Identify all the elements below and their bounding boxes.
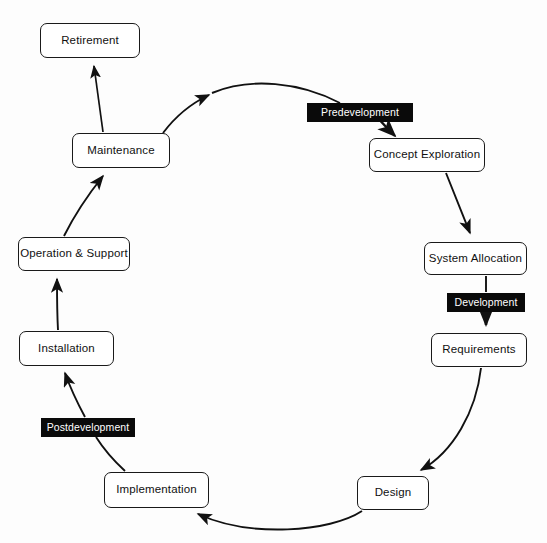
edge-postdevelopment-to-installation [65,373,85,417]
edge-installation-to-operation-support [57,279,58,330]
node-operation-support[interactable]: Operation & Support [18,237,130,271]
edge-top-arc [212,84,340,103]
phase-label-predevelopment: Predevelopment [307,103,413,122]
node-label: Installation [38,343,95,355]
edge-maintenance-to-predevelopment [163,95,209,133]
node-label: Retirement [61,35,119,47]
node-label: Operation & Support [20,248,128,260]
edge-requirements-to-design [421,368,481,470]
phase-label-development: Development [447,293,525,312]
node-label: Concept Exploration [374,149,480,161]
phase-label-text: Development [455,297,518,308]
node-maintenance[interactable]: Maintenance [72,133,170,168]
edge-design-to-implementation [198,511,362,530]
phase-label-postdevelopment: Postdevelopment [41,418,135,437]
node-label: System Allocation [429,253,522,265]
node-system-allocation[interactable]: System Allocation [424,242,527,275]
edge-implementation-to-postdevelopment [96,437,125,471]
edge-operation-support-to-maintenance [64,176,103,236]
node-label: Design [375,487,412,499]
phase-label-text: Postdevelopment [47,422,130,433]
node-label: Maintenance [87,145,155,157]
lifecycle-diagram: Retirement Maintenance Operation & Suppo… [0,0,547,543]
node-requirements[interactable]: Requirements [431,333,527,367]
phase-label-text: Predevelopment [321,107,399,118]
node-retirement[interactable]: Retirement [40,23,140,58]
edge-maintenance-to-retirement [94,66,103,132]
node-design[interactable]: Design [357,476,429,510]
node-installation[interactable]: Installation [19,331,114,366]
node-label: Implementation [116,484,197,496]
edge-concept-to-system-allocation [446,173,470,233]
node-label: Requirements [442,344,515,356]
node-implementation[interactable]: Implementation [104,472,209,508]
node-concept-exploration[interactable]: Concept Exploration [369,138,485,172]
